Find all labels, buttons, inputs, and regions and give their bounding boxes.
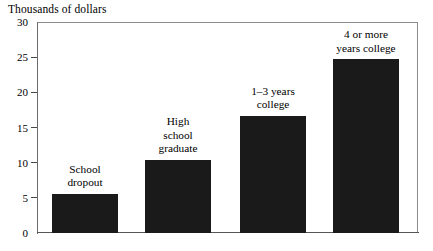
bar-label-line: 1–3 years	[216, 85, 330, 99]
y-axis-tick: 15	[0, 122, 37, 134]
y-axis-tick: 0	[0, 227, 37, 239]
y-axis-tick-label: 30	[17, 16, 28, 28]
bar	[240, 116, 306, 233]
bar-label-line: years college	[309, 42, 423, 56]
y-axis-tick: 20	[0, 86, 37, 98]
bar-label: Highschoolgraduate	[121, 115, 235, 156]
y-axis-tick-label: 25	[17, 51, 28, 63]
y-axis-tick: 30	[0, 16, 37, 28]
bar-label: 4 or moreyears college	[309, 28, 423, 55]
bar-label-line: dropout	[28, 176, 142, 190]
bar-label-line: school	[121, 129, 235, 143]
y-axis-tick-label: 5	[23, 192, 29, 204]
bar-group: Highschoolgraduate	[145, 22, 211, 233]
bar-label-line: college	[216, 98, 330, 112]
y-axis-tick: 5	[0, 192, 37, 204]
bar	[333, 59, 399, 233]
bar-group: 1–3 yearscollege	[240, 22, 306, 233]
bars-layer: SchooldropoutHighschoolgraduate1–3 years…	[37, 22, 418, 233]
y-axis-tick: 25	[0, 51, 37, 63]
bar	[52, 194, 118, 233]
y-axis-tick-label: 10	[17, 157, 28, 169]
bar-label: Schooldropout	[28, 163, 142, 190]
bar-label-line: 4 or more	[309, 28, 423, 42]
bar-chart-figure: Thousands of dollars 051015202530 School…	[0, 0, 433, 251]
bar	[145, 160, 211, 233]
y-axis-tick-label: 15	[17, 122, 28, 134]
bar-group: Schooldropout	[52, 22, 118, 233]
bar-group: 4 or moreyears college	[333, 22, 399, 233]
bar-label-line: High	[121, 115, 235, 129]
y-axis-tick-label: 0	[23, 227, 29, 239]
bar-label-line: graduate	[121, 142, 235, 156]
y-axis-title: Thousands of dollars	[8, 2, 106, 16]
y-axis-tick-label: 20	[17, 86, 28, 98]
bar-label-line: School	[28, 163, 142, 177]
bar-label: 1–3 yearscollege	[216, 85, 330, 112]
